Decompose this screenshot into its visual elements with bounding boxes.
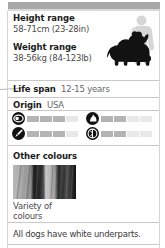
card-header-shadow (8, 9, 160, 11)
rating-segment (53, 131, 65, 137)
rating-segment (101, 116, 113, 122)
rating-segment (66, 116, 78, 122)
dog-sit-icon (86, 112, 99, 125)
divider-above-other-colours (8, 145, 159, 146)
rating-exercise (86, 127, 160, 140)
rating-exercise-bars (101, 131, 152, 137)
stat-life-span-label: Life span (13, 84, 56, 94)
divider-above-life-span (8, 80, 159, 81)
primary-stats: Height range 58-71cm (23-28in) Weight ra… (13, 13, 153, 71)
rating-brush (12, 127, 86, 140)
stat-height-range: Height range 58-71cm (23-28in) (13, 13, 153, 35)
care-ratings-row (12, 111, 160, 126)
stat-height-range-value: 58-71cm (23-28in) (13, 24, 153, 35)
brush-icon (12, 127, 25, 140)
rating-segment (27, 131, 39, 137)
rating-segment (114, 116, 126, 122)
care-ratings-row (12, 126, 160, 141)
rating-dog-sit-bars (101, 116, 152, 122)
stat-weight-range: Weight range 38-56kg (84-123lb) (13, 42, 153, 64)
card-bottom-rule (8, 244, 159, 245)
rating-segment (127, 116, 139, 122)
rating-segment (127, 131, 139, 137)
rating-segment (40, 131, 52, 137)
fur-texture-swatch (13, 165, 76, 199)
stat-origin-label: Origin (13, 100, 42, 110)
muzzle-icon (12, 112, 25, 125)
rating-dog-sit (86, 112, 160, 125)
stat-height-range-label: Height range (13, 13, 153, 24)
card-header-bar (8, 2, 160, 9)
rating-segment (114, 131, 126, 137)
other-colours-caption-line2: colours (13, 211, 52, 221)
rating-muzzle (12, 112, 86, 125)
other-colours-caption-line1: Variety of (13, 201, 52, 211)
care-ratings-grid (12, 111, 160, 141)
stat-origin-value: USA (47, 100, 64, 110)
stat-life-span-value: 12-15 years (61, 84, 110, 94)
stat-life-span: Life span 12-15 years (13, 84, 110, 95)
stat-weight-range-label: Weight range (13, 42, 153, 53)
divider-above-origin (8, 97, 159, 98)
rating-segment (40, 116, 52, 122)
rating-muzzle-bars (27, 116, 78, 122)
rating-segment (140, 116, 152, 122)
stat-weight-range-value: 38-56kg (84-123lb) (13, 53, 153, 64)
other-colours-caption: Variety of colours (13, 201, 52, 221)
other-colours-title: Other colours (13, 151, 77, 161)
divider-above-footnote (8, 222, 159, 223)
rating-segment (53, 116, 65, 122)
rating-segment (27, 116, 39, 122)
dog-breed-stat-card: Height range 58-71cm (23-28in) Weight ra… (0, 0, 165, 248)
rating-segment (66, 131, 78, 137)
rating-brush-bars (27, 131, 78, 137)
footnote-text: All dogs have white underparts. (13, 229, 141, 239)
rating-segment (140, 131, 152, 137)
exercise-icon (86, 127, 99, 140)
rating-segment (101, 131, 113, 137)
card-frame-left-rule (7, 11, 8, 248)
